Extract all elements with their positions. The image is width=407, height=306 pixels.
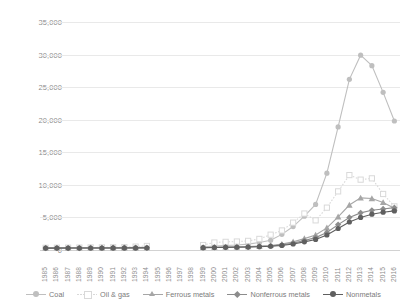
x-axis-tick-label: 2010 <box>322 267 329 282</box>
legend-item-ferrous-metals[interactable]: Ferrous metals <box>143 290 215 299</box>
chart-legend: CoalOil & gasFerrous metalsNonferrous me… <box>0 286 407 302</box>
data-point-marker <box>43 246 48 251</box>
data-point-marker <box>336 124 341 129</box>
data-point-marker <box>54 245 59 250</box>
data-point-marker <box>212 245 217 250</box>
x-axis-tick-label: 1996 <box>165 267 172 282</box>
x-axis-tick-label: 1985 <box>41 267 48 282</box>
x-axis-tick-label: 2000 <box>210 267 217 282</box>
data-point-marker <box>111 245 116 250</box>
data-point-marker <box>313 218 318 223</box>
legend-label: Oil & gas <box>100 290 130 299</box>
legend-marker-icon <box>77 290 97 299</box>
data-point-marker <box>302 239 307 244</box>
data-point-marker <box>246 238 251 243</box>
legend-item-nonferrous-metals[interactable]: Nonferrous metals <box>227 290 310 299</box>
data-point-marker <box>347 77 352 82</box>
data-point-marker <box>88 245 93 250</box>
data-point-marker <box>313 237 318 242</box>
x-axis-tick-label: 1997 <box>176 267 183 282</box>
x-axis-tick-label: 1986 <box>52 267 59 282</box>
x-axis-tick-label: 2012 <box>345 267 352 282</box>
legend-item-coal[interactable]: Coal <box>26 290 64 299</box>
data-point-marker <box>336 189 341 194</box>
data-point-marker <box>369 212 374 217</box>
data-point-marker <box>257 236 262 241</box>
x-axis-tick-label: 2015 <box>379 267 386 282</box>
legend-label: Coal <box>49 290 64 299</box>
data-point-marker <box>369 176 374 181</box>
data-point-marker <box>347 172 352 177</box>
x-axis-tick-label: 2014 <box>367 267 374 282</box>
data-point-marker <box>369 63 374 68</box>
data-point-marker <box>346 202 353 208</box>
data-point-marker <box>358 215 363 220</box>
data-point-marker <box>144 245 149 250</box>
legend-marker-icon <box>227 290 247 299</box>
legend-marker-icon <box>323 290 343 299</box>
x-axis-tick-label: 1993 <box>131 267 138 282</box>
data-point-marker <box>223 245 228 250</box>
x-axis-tick-label: 2009 <box>311 267 318 282</box>
data-point-marker <box>381 191 386 196</box>
data-point-marker <box>324 205 329 210</box>
x-axis-tick-label: 1987 <box>64 267 71 282</box>
data-point-marker <box>381 210 386 215</box>
x-axis-labels: 1985198619871988198919901991199219931994… <box>40 252 400 282</box>
series-layer <box>40 22 400 250</box>
x-axis-tick-label: 1992 <box>120 267 127 282</box>
data-point-marker <box>324 232 329 237</box>
x-axis-tick-label: 1991 <box>109 267 116 282</box>
x-axis-tick-label: 1989 <box>86 267 93 282</box>
x-axis-tick-label: 2001 <box>221 267 228 282</box>
data-point-marker <box>201 245 206 250</box>
x-axis-tick-label: 1998 <box>187 267 194 282</box>
data-point-marker <box>133 245 138 250</box>
x-axis-tick-label: 2011 <box>334 267 341 282</box>
legend-label: Nonmetals <box>346 290 381 299</box>
data-point-marker <box>268 244 273 249</box>
data-point-marker <box>223 239 228 244</box>
x-axis-tick-label: 2006 <box>277 267 284 282</box>
x-axis-tick-label: 2008 <box>300 267 307 282</box>
x-axis-tick-label: 2007 <box>289 267 296 282</box>
series-nonmetals <box>43 208 397 250</box>
data-point-marker <box>392 118 397 123</box>
x-axis-tick-label: 2016 <box>390 267 397 282</box>
data-point-marker <box>77 245 82 250</box>
data-point-marker <box>246 244 251 249</box>
data-point-marker <box>279 228 284 233</box>
legend-label: Nonferrous metals <box>250 290 310 299</box>
data-point-marker <box>291 241 296 246</box>
data-point-marker <box>324 171 329 176</box>
x-axis-tick-label: 2005 <box>266 267 273 282</box>
data-point-marker <box>66 245 71 250</box>
data-point-marker <box>268 232 273 237</box>
data-point-marker <box>358 177 363 182</box>
x-axis-tick-label: 1988 <box>75 267 82 282</box>
data-point-marker <box>268 238 273 243</box>
data-point-marker <box>279 243 284 248</box>
x-axis-tick-label: 2004 <box>255 267 262 282</box>
legend-item-oil-gas[interactable]: Oil & gas <box>77 290 130 299</box>
series-line <box>203 198 394 248</box>
x-axis-tick-label: 1999 <box>199 267 206 282</box>
x-axis-line <box>40 250 400 251</box>
x-axis-tick-label: 2002 <box>232 267 239 282</box>
x-axis-tick-label: 1995 <box>154 267 161 282</box>
data-point-marker <box>392 208 397 213</box>
series-nonferrous-metals <box>43 205 398 252</box>
data-point-marker <box>234 239 239 244</box>
data-point-marker <box>302 211 307 216</box>
legend-marker-icon <box>143 290 163 299</box>
legend-item-nonmetals[interactable]: Nonmetals <box>323 290 381 299</box>
legend-marker-icon <box>26 290 46 299</box>
data-point-marker <box>234 245 239 250</box>
data-point-marker <box>347 219 352 224</box>
x-axis-tick-label: 2003 <box>244 267 251 282</box>
data-point-marker <box>291 220 296 225</box>
chart-container: 35,00030,00025,00020,00015,00010,0005,00… <box>0 0 407 306</box>
data-point-marker <box>381 90 386 95</box>
series-line <box>203 55 394 247</box>
data-point-marker <box>358 53 363 58</box>
